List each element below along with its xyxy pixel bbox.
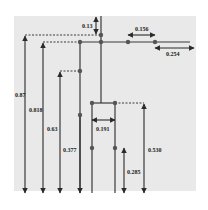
node-branch-2 <box>153 40 157 44</box>
node-left-2 <box>78 69 82 73</box>
node-left-3 <box>78 113 82 117</box>
node-branch-1 <box>126 40 130 44</box>
node-box-tr <box>113 101 117 105</box>
label-0377: 0.377 <box>63 147 77 153</box>
label-0254: 0.254 <box>166 51 180 57</box>
node-box-br <box>113 146 117 150</box>
dimension-diagram: 0.13 0.156 0.254 0.87 0.818 0.63 0.377 0… <box>0 0 208 210</box>
node-top <box>99 33 103 37</box>
label-0191: 0.191 <box>96 126 110 132</box>
label-013: 0.13 <box>82 23 93 29</box>
node-trunk-branch <box>99 40 103 44</box>
label-063: 0.63 <box>47 126 58 132</box>
label-0285: 0.285 <box>127 169 141 175</box>
label-0818: 0.818 <box>29 107 43 113</box>
node-left-1 <box>78 40 82 44</box>
node-box-bl <box>90 146 94 150</box>
label-087: 0.87 <box>15 92 26 98</box>
node-box-tl <box>90 101 94 105</box>
label-0530: 0.530 <box>148 147 162 153</box>
label-0156: 0.156 <box>135 26 149 32</box>
